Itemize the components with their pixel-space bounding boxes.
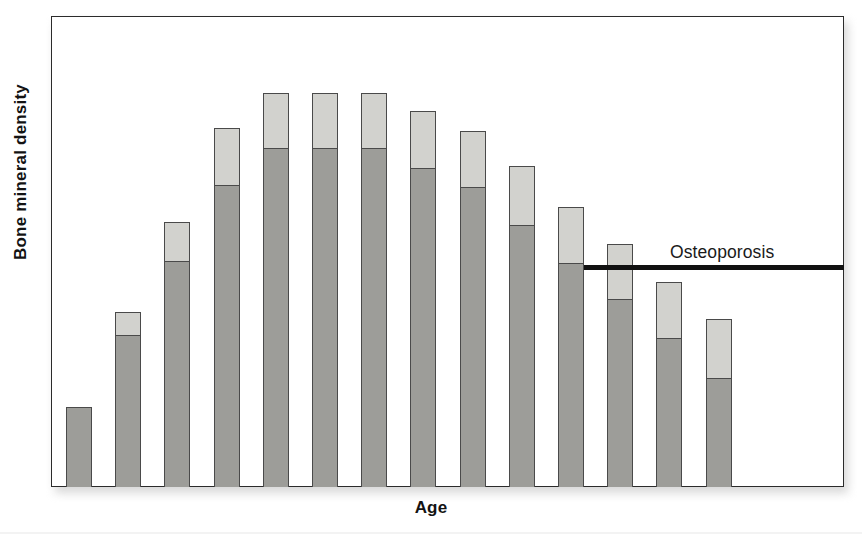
bar-6-upper-segment [313,94,337,149]
bar-4-upper-segment [215,129,239,186]
bar-12 [607,244,633,487]
bar-3-upper-segment [165,223,189,262]
bar-11 [558,207,584,487]
y-axis-title: Bone mineral density [11,67,31,277]
bar-9 [460,131,486,487]
bar-4 [214,128,240,487]
bar-8-upper-segment [411,112,435,169]
bar-6 [312,93,338,487]
bar-8 [410,111,436,487]
bar-10 [509,166,535,487]
bar-7-upper-segment [362,94,386,149]
bar-5 [263,93,289,487]
bar-7 [361,93,387,487]
bar-13-upper-segment [657,283,681,339]
osteoporosis-threshold-line [584,265,844,270]
osteoporosis-threshold-label: Osteoporosis [670,242,774,263]
bone-density-figure: Osteoporosis Bone mineral density Age [0,0,862,534]
bar-13 [656,282,682,487]
bar-14 [706,319,732,487]
bar-11-upper-segment [559,208,583,264]
bar-5-upper-segment [264,94,288,149]
bar-14-upper-segment [707,320,731,379]
bar-2-upper-segment [116,313,140,336]
bar-2 [115,312,141,487]
bar-9-upper-segment [461,132,485,188]
bar-3 [164,222,190,487]
bar-10-upper-segment [510,167,534,226]
bar-1 [66,407,92,487]
bar-12-upper-segment [608,245,632,300]
x-axis-title: Age [0,498,862,518]
